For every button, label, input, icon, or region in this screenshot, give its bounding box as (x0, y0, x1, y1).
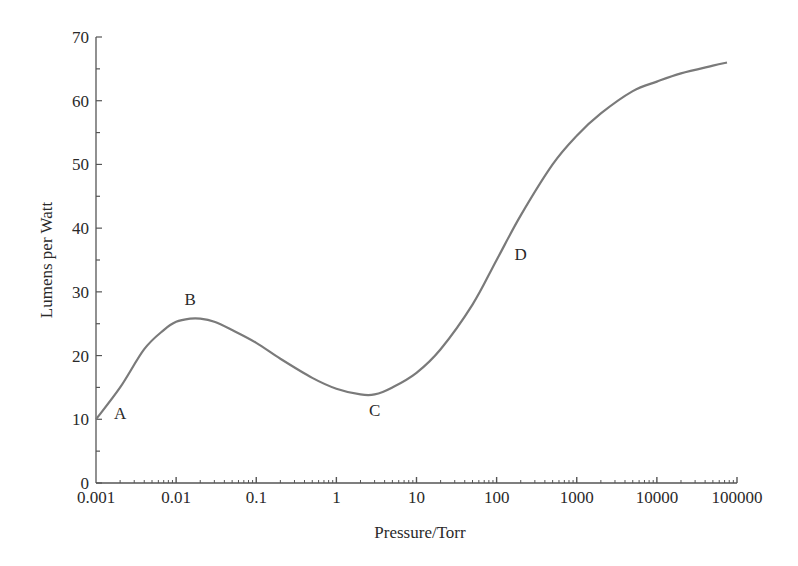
axes (96, 37, 737, 483)
x-tick-label: 1 (332, 488, 341, 507)
point-label-b: B (185, 290, 196, 309)
x-tick-label: 10000 (636, 488, 679, 507)
y-tick-label: 10 (72, 410, 89, 429)
y-axis-title: Lumens per Watt (37, 202, 56, 319)
x-tick-label: 0.1 (246, 488, 267, 507)
x-tick-label: 1000 (560, 488, 594, 507)
x-axis-title: Pressure/Torr (374, 523, 466, 542)
y-tick-label: 50 (72, 155, 89, 174)
axis-ticks (96, 37, 737, 483)
point-label-d: D (515, 245, 527, 264)
y-tick-label: 20 (72, 347, 89, 366)
axis-tick-labels: 0102030405060700.0010.010.11101001000100… (72, 28, 763, 507)
efficacy-curve (96, 62, 727, 419)
y-tick-label: 60 (72, 92, 89, 111)
x-tick-label: 100 (484, 488, 510, 507)
point-label-c: C (369, 401, 380, 420)
x-tick-label: 10 (408, 488, 425, 507)
point-label-a: A (114, 404, 127, 423)
y-tick-label: 30 (72, 283, 89, 302)
y-tick-label: 70 (72, 28, 89, 47)
y-tick-label: 40 (72, 219, 89, 238)
lumens-vs-pressure-chart: 0102030405060700.0010.010.11101001000100… (0, 0, 798, 566)
x-tick-label: 0.001 (77, 488, 115, 507)
point-labels: ABCD (114, 245, 527, 423)
x-tick-label: 100000 (712, 488, 763, 507)
x-tick-label: 0.01 (161, 488, 191, 507)
